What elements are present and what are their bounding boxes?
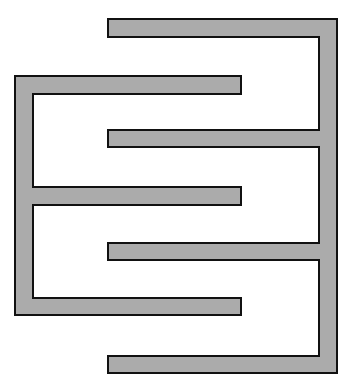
left-comb-electrode	[15, 76, 241, 315]
left-comb-shape	[15, 76, 241, 315]
interdigital-electrode-diagram	[0, 0, 348, 387]
